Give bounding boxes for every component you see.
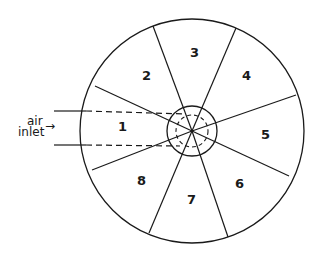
inlet-label: air inlet → bbox=[18, 114, 55, 139]
segment-label-7: 7 bbox=[187, 192, 196, 207]
segment-label-8: 8 bbox=[137, 173, 146, 188]
arrow-right-icon: → bbox=[45, 119, 55, 133]
segment-label-2: 2 bbox=[142, 68, 151, 83]
rotary-sector-diagram: 1 2 3 4 5 6 7 8 air inlet → bbox=[0, 0, 316, 259]
inlet-label-inlet: inlet bbox=[18, 125, 45, 139]
segment-label-4: 4 bbox=[242, 68, 251, 83]
segment-label-3: 3 bbox=[190, 45, 199, 60]
segment-label-5: 5 bbox=[261, 127, 270, 142]
segment-label-1: 1 bbox=[118, 119, 127, 134]
segment-label-6: 6 bbox=[235, 176, 244, 191]
